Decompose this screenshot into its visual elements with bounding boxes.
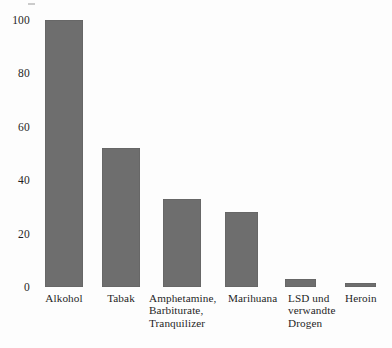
category-label: Alkohol [40, 292, 88, 304]
y-axis-tick-labels: 020406080100 [0, 20, 34, 287]
category-label: Marihuana [228, 292, 290, 304]
y-tick-label: 20 [18, 228, 30, 240]
bar [225, 212, 258, 287]
bar [102, 148, 140, 287]
bar-chart: 020406080100 AlkoholTabakAmphetamine, Ba… [0, 0, 392, 348]
category-label: Tabak [98, 292, 144, 304]
y-tick-label: 40 [18, 174, 30, 186]
category-axis-labels: AlkoholTabakAmphetamine, Barbiturate, Tr… [0, 292, 392, 348]
bar [163, 199, 201, 287]
category-label: Amphetamine, Barbiturate, Tranquilizer [149, 292, 229, 329]
y-tick-label: 60 [18, 121, 30, 133]
plot-area [38, 20, 386, 287]
category-label: Heroin [345, 292, 389, 304]
scan-artifact [28, 3, 35, 5]
y-tick-label: 80 [18, 67, 30, 79]
bar [45, 20, 83, 287]
category-label: LSD und verwandte Drogen [288, 292, 346, 329]
y-tick-label: 100 [12, 14, 30, 26]
bar [345, 283, 376, 287]
bar [285, 279, 316, 287]
